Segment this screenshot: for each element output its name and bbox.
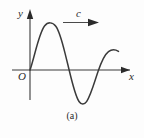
wave-curve [30, 23, 119, 104]
figure-caption: (a) [0, 110, 144, 121]
velocity-arrowhead-icon [88, 19, 99, 26]
y-axis-arrowhead-icon [27, 9, 33, 19]
figure-panel: y x O c (a) [0, 0, 144, 138]
origin-label: O [18, 71, 26, 82]
y-axis-label: y [18, 8, 23, 19]
x-axis-label: x [129, 71, 134, 82]
velocity-label: c [76, 8, 81, 19]
